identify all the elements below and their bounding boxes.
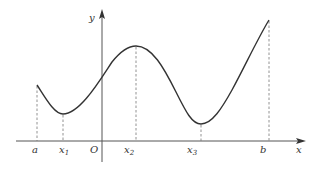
guide-lines [37,21,269,141]
origin-label: O [90,144,98,155]
label-b: b [260,144,266,155]
label-a: a [32,144,38,155]
label-x1: x1 [59,144,69,157]
label-x2: x2 [124,144,135,157]
function-graph: y x O a x1 x2 x3 b [0,0,322,172]
label-x3: x3 [187,144,198,157]
y-axis [99,9,105,162]
y-axis-label: y [88,12,95,23]
function-curve [37,20,269,124]
x-axis-label: x [296,144,302,155]
